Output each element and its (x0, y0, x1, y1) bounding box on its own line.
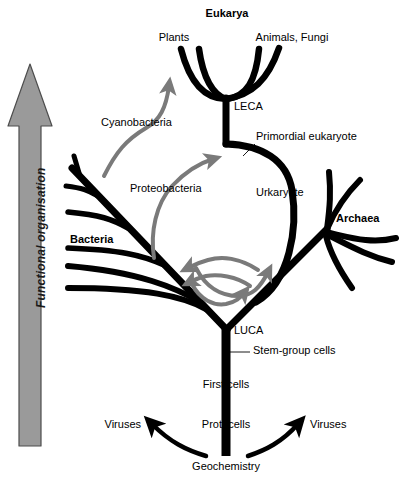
tree-of-life-svg (0, 0, 404, 484)
eukarya-crown-branches (181, 48, 279, 99)
eukaryote-lineage (226, 98, 294, 302)
node-label-stem-group-cells: Stem-group cells (253, 345, 336, 356)
proteobacteria-endosymbiosis-arrow (153, 159, 213, 258)
virus-label-right: Viruses (310, 419, 346, 430)
domain-label-eukarya: Eukarya (206, 8, 249, 19)
node-label-geochemistry: Geochemistry (192, 461, 260, 472)
domain-label-bacteria: Bacteria (70, 234, 113, 245)
tip-label-animals-fungi: Animals, Fungi (256, 32, 329, 43)
tip-label-plants: Plants (159, 32, 190, 43)
node-label-first-cells: First cells (203, 379, 249, 390)
archaea-branches (326, 172, 396, 288)
node-label-urkaryote: Urkaryote (256, 187, 304, 198)
tree-of-life-figure: Functional organisation Eukarya Plants A… (0, 0, 404, 484)
cyanobacteria-endosymbiosis-arrow (104, 86, 169, 176)
node-label-leca: LECA (234, 101, 263, 112)
endosymbiont-label-proteobacteria: Proteobacteria (130, 183, 202, 194)
domain-label-archaea: Archaea (336, 213, 379, 224)
node-label-luca: LUCA (234, 325, 263, 336)
node-label-protocells: Protocells (202, 419, 250, 430)
functional-organisation-axis-label: Functional organisation (34, 167, 48, 308)
virus-label-left: Viruses (105, 419, 141, 430)
endosymbiont-label-cyanobacteria: Cyanobacteria (101, 117, 172, 128)
node-label-primordial-eukaryote: Primordial eukaryote (256, 131, 357, 142)
